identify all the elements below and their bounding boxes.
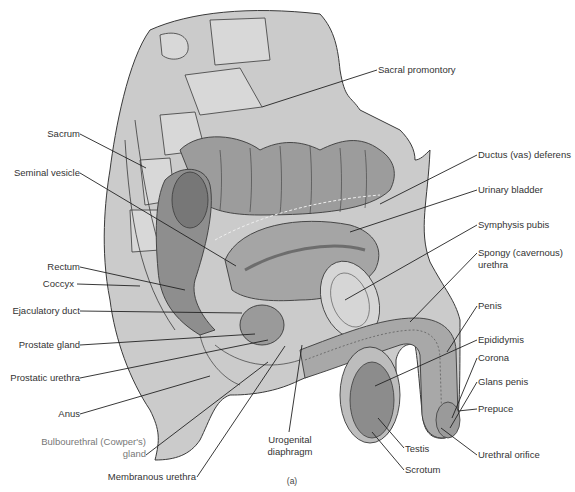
label-line: Coccyx: [43, 278, 74, 290]
intestine: [180, 137, 394, 215]
vertebra: [160, 33, 188, 59]
label-line: Urinary bladder: [478, 184, 543, 196]
prostate: [240, 305, 284, 345]
rectal-lumen: [172, 172, 208, 228]
label-symphysis-pubis: Symphysis pubis: [478, 219, 549, 231]
figure-caption: (a): [282, 475, 302, 487]
vertebra: [210, 18, 270, 65]
leader-scrotum: [372, 432, 404, 470]
leader-urethral-orifice: [441, 428, 477, 455]
label-line: Seminal vesicle: [14, 167, 80, 179]
label-prostate-gland: Prostate gland: [19, 339, 80, 351]
label-line: Anus: [58, 408, 80, 420]
anatomy-diagram: Sacral promontorySacrumSeminal vesicleDu…: [0, 0, 575, 492]
label-prepuce: Prepuce: [478, 403, 513, 415]
label-seminal-vesicle: Seminal vesicle: [14, 167, 80, 179]
label-scrotum: Scrotum: [405, 464, 440, 476]
label-prostatic-urethra: Prostatic urethra: [10, 372, 80, 384]
pelvis-sagittal-illustration: [0, 0, 575, 492]
label-penis: Penis: [478, 300, 502, 312]
label-membranous-urethra: Membranous urethra: [108, 471, 196, 483]
label-rectum: Rectum: [47, 261, 80, 273]
label-line: Sacrum: [47, 128, 80, 140]
label-line: Urethral orifice: [478, 449, 540, 461]
label-urogenital-diaphragm: Urogenitaldiaphragm: [250, 434, 330, 458]
label-line: diaphragm: [250, 446, 330, 458]
label-line: Glans penis: [478, 376, 528, 388]
label-line: Corona: [478, 352, 509, 364]
label-line: Testis: [405, 443, 429, 455]
label-line: Penis: [478, 300, 502, 312]
label-line: gland: [41, 448, 146, 460]
label-line: Prepuce: [478, 403, 513, 415]
label-line: Membranous urethra: [108, 471, 196, 483]
label-line: Urogenital: [250, 434, 330, 446]
label-line: Epididymis: [478, 334, 524, 346]
label-urinary-bladder: Urinary bladder: [478, 184, 543, 196]
label-line: Ductus (vas) deferens: [478, 149, 571, 161]
label-line: urethra: [478, 259, 563, 271]
label-coccyx: Coccyx: [43, 278, 74, 290]
label-urethral-orifice: Urethral orifice: [478, 449, 540, 461]
label-line: Scrotum: [405, 464, 440, 476]
label-ductus-deferens: Ductus (vas) deferens: [478, 149, 571, 161]
label-ejaculatory-duct: Ejaculatory duct: [12, 305, 80, 317]
label-line: Rectum: [47, 261, 80, 273]
label-line: Spongy (cavernous): [478, 247, 563, 259]
label-glans-penis: Glans penis: [478, 376, 528, 388]
label-line: Symphysis pubis: [478, 219, 549, 231]
label-line: Ejaculatory duct: [12, 305, 80, 317]
label-corona: Corona: [478, 352, 509, 364]
label-spongy-urethra: Spongy (cavernous)urethra: [478, 247, 563, 271]
label-sacrum: Sacrum: [47, 128, 80, 140]
label-anus: Anus: [58, 408, 80, 420]
label-line: Prostatic urethra: [10, 372, 80, 384]
label-line: Sacral promontory: [378, 64, 456, 76]
label-testis: Testis: [405, 443, 429, 455]
testis: [350, 362, 394, 438]
label-epididymis: Epididymis: [478, 334, 524, 346]
label-bulbourethral-gland: Bulbourethral (Cowper's)gland: [41, 436, 146, 460]
label-sacral-promontory: Sacral promontory: [378, 64, 456, 76]
label-line: Prostate gland: [19, 339, 80, 351]
label-line: Bulbourethral (Cowper's): [41, 436, 146, 448]
vertebra: [130, 210, 160, 252]
